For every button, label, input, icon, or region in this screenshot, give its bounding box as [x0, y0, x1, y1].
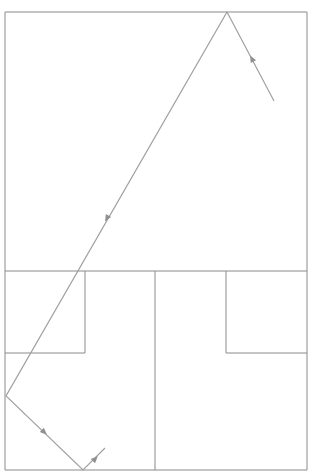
diagram-canvas — [0, 0, 313, 476]
background — [0, 0, 313, 476]
